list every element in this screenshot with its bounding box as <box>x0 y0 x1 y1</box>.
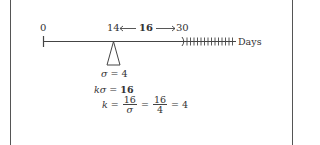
axis-start-label: 0 <box>40 23 46 33</box>
fulcrum-triangle-icon <box>107 42 120 66</box>
right-arrow-icon <box>156 26 175 31</box>
left-arrow-icon <box>120 26 136 31</box>
axis-marker-14-label: 14 <box>107 23 120 33</box>
fulcrum-label: σ = 4 <box>101 68 128 79</box>
eq1-equals: = <box>109 84 117 95</box>
fraction-16-over-sigma: 16σ <box>123 95 137 115</box>
fulcrum-sigma: σ <box>101 68 108 79</box>
eq2-equals-2: = <box>141 99 149 110</box>
equation-k-solve: k = 16σ = 164 = 4 <box>102 95 188 115</box>
eq2-k: k <box>102 99 108 110</box>
fraction-16-over-4: 164 <box>153 95 167 115</box>
frac2-denominator: 4 <box>153 105 167 115</box>
eq2-result: = 4 <box>171 99 188 110</box>
fulcrum-value: = 4 <box>111 68 128 79</box>
axis-marker-30-label: 30 <box>176 23 189 33</box>
axis-unit-label: Days <box>238 37 262 47</box>
frac1-denominator: σ <box>123 105 137 115</box>
eq1-sigma: σ <box>100 84 107 95</box>
span-16-label: 16 <box>139 23 153 33</box>
eq2-equals-1: = <box>111 99 119 110</box>
